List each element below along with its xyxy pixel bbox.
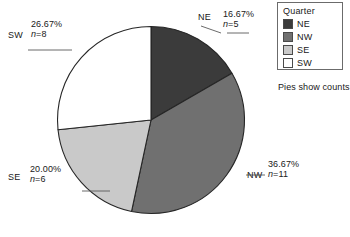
slice-callout-se: 20.00% n=6	[30, 165, 61, 184]
legend-label-ne: NE	[297, 19, 310, 29]
legend-title: Quarter	[283, 6, 338, 16]
slice-count-sw: n=8	[31, 30, 62, 40]
slice-label-nw: NW	[247, 170, 262, 180]
slice-count-nw-suffix: =11	[273, 169, 288, 179]
legend-swatch-se	[283, 45, 293, 55]
slice-count-sw-suffix: =8	[36, 29, 46, 39]
legend-footnote: Pies show counts	[278, 82, 350, 92]
legend-swatch-sw	[283, 58, 293, 68]
legend-swatch-ne	[283, 19, 293, 29]
legend-label-se: SE	[297, 45, 309, 55]
legend-swatch-nw	[283, 32, 293, 42]
legend-item-sw[interactable]: SW	[283, 57, 338, 69]
slice-count-se: n=6	[30, 175, 61, 185]
slice-callout-sw: 26.67% n=8	[31, 20, 62, 39]
slice-callout-nw: 36.67% n=11	[268, 160, 299, 179]
legend-item-nw[interactable]: NW	[283, 31, 338, 43]
slice-label-se: SE	[8, 172, 20, 182]
leader-line-ne	[201, 26, 221, 33]
legend-label-nw: NW	[297, 32, 312, 42]
legend-label-sw: SW	[297, 58, 312, 68]
slice-count-ne-suffix: =5	[228, 19, 238, 29]
slice-count-se-suffix: =6	[35, 174, 45, 184]
slice-label-sw: SW	[8, 30, 23, 40]
pie-slices	[57, 26, 244, 213]
slice-count-ne: n=5	[223, 20, 254, 30]
slice-count-nw: n=11	[268, 170, 299, 180]
legend-item-se[interactable]: SE	[283, 44, 338, 56]
slice-label-ne: NE	[198, 12, 211, 22]
slice-callout-ne: 16.67% n=5	[223, 10, 254, 29]
pie-slice-sw[interactable]	[57, 26, 151, 129]
legend-item-ne[interactable]: NE	[283, 18, 338, 30]
legend: Quarter NE NW SE SW	[277, 2, 343, 70]
